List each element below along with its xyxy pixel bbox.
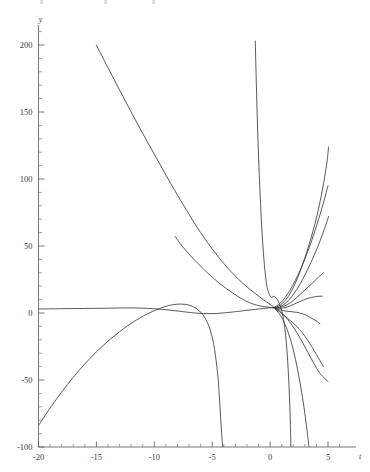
top-crop-artifact bbox=[104, 0, 107, 4]
ticks-group bbox=[39, 32, 340, 447]
y-tick-label: 200 bbox=[20, 40, 33, 50]
y-tick-label: 100 bbox=[20, 174, 33, 184]
y-tick-label: 0 bbox=[28, 308, 32, 318]
x-tick-label: -15 bbox=[91, 452, 102, 462]
top-crop-artifact bbox=[40, 0, 43, 4]
axes-group bbox=[39, 25, 357, 447]
y-tick-label: 150 bbox=[20, 107, 33, 117]
x-tick-label: -10 bbox=[149, 452, 160, 462]
curves-group bbox=[39, 41, 329, 452]
solution-curve bbox=[96, 45, 328, 381]
solution-curve bbox=[39, 308, 274, 314]
solution-curve bbox=[175, 147, 328, 308]
y-tick-label: -50 bbox=[21, 375, 32, 385]
y-tick-label: 50 bbox=[24, 241, 33, 251]
solution-curves-plot: -20-15-10-505-100-50050100150200ty bbox=[0, 0, 370, 472]
x-tick-label: 0 bbox=[268, 452, 272, 462]
y-tick-label: -100 bbox=[17, 442, 33, 452]
solution-curve bbox=[255, 41, 291, 447]
y-axis-name: y bbox=[38, 15, 43, 24]
x-axis-name: t bbox=[359, 452, 362, 461]
plot-figure: -20-15-10-505-100-50050100150200ty bbox=[0, 0, 370, 472]
solution-curve bbox=[39, 304, 223, 447]
tick-labels-group: -20-15-10-505-100-50050100150200ty bbox=[17, 15, 362, 462]
solution-curve bbox=[274, 308, 310, 453]
x-tick-label: -5 bbox=[209, 452, 216, 462]
x-tick-label: -20 bbox=[33, 452, 44, 462]
x-tick-label: 5 bbox=[326, 452, 330, 462]
top-crop-artifact bbox=[152, 0, 155, 4]
